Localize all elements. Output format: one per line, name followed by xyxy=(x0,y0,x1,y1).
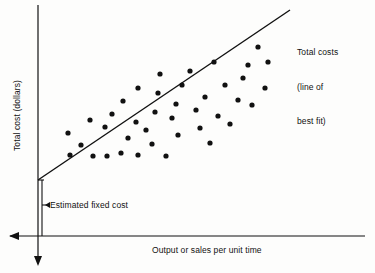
scatter-point xyxy=(109,111,114,116)
line-label-row-2: (line of xyxy=(297,82,338,94)
scatter-point xyxy=(67,152,72,157)
scatter-point xyxy=(157,71,162,76)
scatter-point xyxy=(102,124,107,129)
scatter-point xyxy=(163,153,168,158)
line-of-best-fit-label: Total costs (line of best fit) xyxy=(297,24,338,151)
scatter-point xyxy=(235,97,240,102)
scatter-point xyxy=(149,141,154,146)
scatter-point xyxy=(118,150,123,155)
scatter-point xyxy=(249,102,254,107)
y-axis-arrowhead-icon xyxy=(34,256,42,266)
fixed-cost-bracket xyxy=(38,180,50,236)
scatter-point xyxy=(207,140,212,145)
cost-scatter-figure: Total cost (dollars) Output or sales per… xyxy=(0,0,375,273)
y-axis xyxy=(34,5,42,266)
estimated-fixed-cost-label: Estimated fixed cost xyxy=(50,200,128,211)
scatter-point xyxy=(255,44,260,49)
scatter-point xyxy=(125,135,130,140)
scatter-point xyxy=(78,142,83,147)
scatter-point xyxy=(175,132,180,137)
scatter-point xyxy=(155,90,160,95)
x-axis-label: Output or sales per unit time xyxy=(152,245,262,256)
scatter-point xyxy=(222,82,227,87)
scatter-point xyxy=(133,119,138,124)
scatter-point xyxy=(143,127,148,132)
scatter-point xyxy=(135,85,140,90)
scatter-point xyxy=(87,117,92,122)
scatter-point xyxy=(104,153,109,158)
scatter-point xyxy=(187,68,192,73)
line-label-row-1: Total costs xyxy=(297,47,338,59)
x-axis-arrowhead-icon xyxy=(9,232,19,240)
scatter-point xyxy=(227,121,232,126)
scatter-point xyxy=(90,153,95,158)
x-axis xyxy=(9,232,365,240)
scatter-point xyxy=(179,82,184,87)
scatter-point xyxy=(211,59,216,64)
scatter-point xyxy=(135,152,140,157)
line-label-row-3: best fit) xyxy=(297,116,338,128)
scatter-point xyxy=(245,62,250,67)
scatter-point xyxy=(197,125,202,130)
scatter-point xyxy=(65,130,70,135)
scatter-point xyxy=(215,113,220,118)
scatter-point xyxy=(120,98,125,103)
scatter-point xyxy=(202,94,207,99)
scatter-point xyxy=(193,107,198,112)
y-axis-label: Total cost (dollars) xyxy=(12,66,23,166)
scatter-point xyxy=(262,85,267,90)
scatter-point xyxy=(240,75,245,80)
scatter-point xyxy=(173,101,178,106)
scatter-point xyxy=(169,115,174,120)
scatter-point xyxy=(265,59,270,64)
scatter-point xyxy=(152,109,157,114)
